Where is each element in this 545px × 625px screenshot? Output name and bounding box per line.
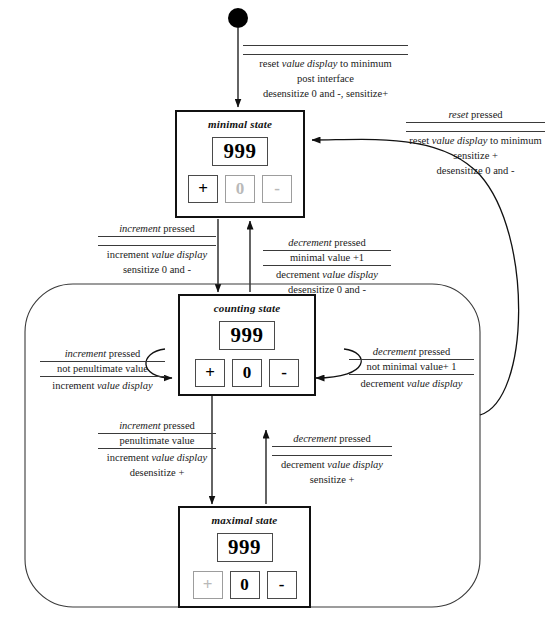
state-counting-value-display: 999 (219, 321, 275, 350)
state-counting-button-row: + 0 - (180, 359, 314, 387)
label-reset-to-minimal: reset pressed reset value display to min… (406, 108, 545, 177)
state-counting-name: counting state (180, 302, 314, 314)
label-count-to-max-trigger: increment pressed (98, 419, 216, 434)
label-min-to-count-guard (98, 237, 216, 246)
label-count-to-min-action-2: desensitize 0 and - (263, 281, 391, 296)
label-self-inc-action-1: increment value display (40, 377, 165, 392)
label-count-to-min-trigger: decrement pressed (263, 236, 391, 251)
label-maximal-to-counting: decrement pressed decrement value displa… (272, 432, 392, 486)
label-self-inc-trigger: increment pressed (40, 347, 165, 362)
label-initial-guard (243, 46, 408, 55)
state-maximal-zero-button[interactable]: 0 (230, 571, 260, 599)
state-minimal-decrement-button: - (262, 175, 292, 203)
label-self-dec-trigger: decrement pressed (349, 345, 474, 360)
label-count-to-min-guard: minimal value +1 (263, 251, 391, 266)
label-reset-guard (406, 123, 545, 132)
label-min-to-count-action-2: sensitize 0 and - (98, 261, 216, 276)
state-minimal[interactable]: minimal state 999 + 0 - (175, 110, 305, 218)
state-maximal-value-display: 999 (217, 533, 273, 562)
state-maximal[interactable]: maximal state 999 + 0 - (178, 506, 311, 608)
label-self-dec-action-1: decrement value display (349, 375, 474, 390)
state-counting-increment-button[interactable]: + (195, 359, 225, 387)
initial-pseudostate-dot (228, 8, 248, 28)
state-minimal-name: minimal state (177, 118, 303, 130)
state-counting-decrement-button[interactable]: - (269, 359, 299, 387)
label-reset-action-2: sensitize + (406, 147, 545, 162)
state-counting[interactable]: counting state 999 + 0 - (178, 294, 316, 396)
state-maximal-name: maximal state (180, 514, 309, 526)
state-maximal-decrement-button[interactable]: - (267, 571, 297, 599)
label-counting-self-decrement: decrement pressed not minimal value+ 1 d… (349, 345, 474, 390)
label-initial-action-2: post interface (243, 70, 408, 85)
label-self-dec-guard: not minimal value+ 1 (349, 360, 474, 375)
state-minimal-increment-button[interactable]: + (188, 175, 218, 203)
state-minimal-zero-button: 0 (225, 175, 255, 203)
label-initial-action-3: desensitize 0 and -, sensitize+ (243, 85, 408, 100)
state-maximal-increment-button: + (193, 571, 223, 599)
label-counting-to-minimal: decrement pressed minimal value +1 decre… (263, 236, 391, 296)
label-max-to-count-action-2: sensitize + (272, 471, 392, 486)
label-count-to-max-action-1: increment value display (98, 449, 216, 464)
label-count-to-min-action-1: decrement value display (263, 266, 391, 281)
state-diagram-canvas: minimal state 999 + 0 - counting state 9… (0, 0, 545, 625)
label-counting-to-maximal: increment pressed penultimate value incr… (98, 419, 216, 479)
label-minimal-to-counting: increment pressed increment value displa… (98, 222, 216, 276)
label-initial-action-1: reset value display to minimum (243, 55, 408, 70)
label-max-to-count-guard (272, 447, 392, 456)
label-min-to-count-action-1: increment value display (98, 246, 216, 261)
label-reset-action-3: desensitize 0 and - (406, 162, 545, 177)
label-min-to-count-trigger: increment pressed (98, 222, 216, 237)
label-reset-trigger: reset pressed (406, 108, 545, 123)
label-count-to-max-guard: penultimate value (98, 434, 216, 449)
state-maximal-button-row: + 0 - (180, 571, 309, 599)
label-counting-self-increment: increment pressed not penultimate value … (40, 347, 165, 392)
state-minimal-value-display: 999 (212, 137, 268, 166)
label-count-to-max-action-2: desensitize + (98, 464, 216, 479)
label-reset-action-1: reset value display to minimum (406, 132, 545, 147)
state-minimal-button-row: + 0 - (177, 175, 303, 203)
label-max-to-count-trigger: decrement pressed (272, 432, 392, 447)
state-counting-zero-button[interactable]: 0 (232, 359, 262, 387)
label-self-inc-guard: not penultimate value (40, 362, 165, 377)
label-initial-to-minimal: reset value display to minimum post inte… (243, 44, 408, 100)
label-max-to-count-action-1: decrement value display (272, 456, 392, 471)
